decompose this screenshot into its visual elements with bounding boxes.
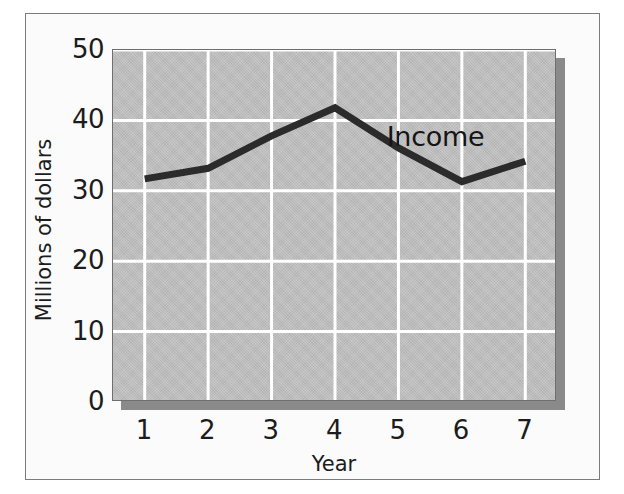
x-tick-label-2: 2 [177,417,237,443]
line-chart: Income 01020304050 1234567 Year Millions… [0,0,624,494]
plot-shadow-bottom [121,401,565,410]
y-axis-title: Millions of dollars [32,120,56,340]
x-tick-label-4: 4 [304,417,364,443]
x-tick-label-1: 1 [114,417,174,443]
x-tick-label-5: 5 [367,417,427,443]
grid-lines-vertical [145,50,526,401]
y-tick-label-0: 0 [42,388,104,414]
plot-canvas [113,50,556,401]
plot-shadow-right [556,58,565,410]
x-tick-label-3: 3 [241,417,301,443]
y-tick-label-50: 50 [42,36,104,62]
x-tick-label-7: 7 [494,417,554,443]
x-axis-ticks: 1234567 [112,417,556,451]
series-label-income: Income [387,121,485,152]
x-tick-label-6: 6 [431,417,491,443]
plot-area [112,49,556,401]
x-axis-title: Year [112,452,556,476]
